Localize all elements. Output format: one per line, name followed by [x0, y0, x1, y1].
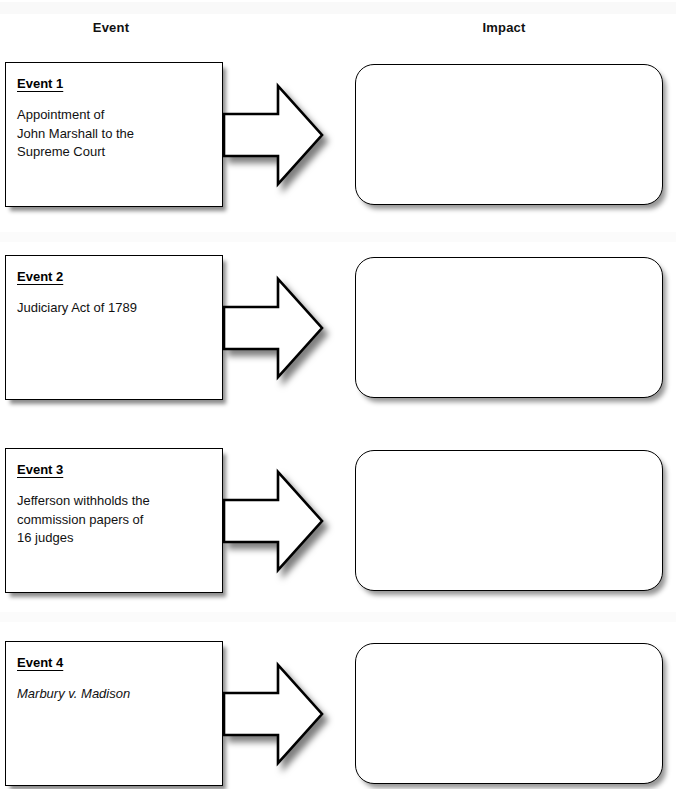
- scan-artifact-band: [0, 232, 676, 242]
- column-header-event: Event: [51, 20, 171, 35]
- table-row: Event 4 Marbury v. Madison: [0, 641, 676, 789]
- right-block-arrow-icon: [222, 82, 324, 188]
- right-block-arrow-icon: [222, 661, 324, 767]
- event-title: Event 3: [17, 462, 63, 477]
- column-header-impact: Impact: [444, 20, 564, 35]
- event-description: Jefferson withholds the commission paper…: [17, 492, 214, 548]
- impact-box[interactable]: [355, 257, 663, 398]
- table-row: Event 2 Judiciary Act of 1789: [0, 255, 676, 403]
- event-box[interactable]: Event 1 Appointment of John Marshall to …: [5, 62, 223, 207]
- event-box[interactable]: Event 2 Judiciary Act of 1789: [5, 255, 223, 400]
- impact-box[interactable]: [355, 643, 663, 784]
- scan-artifact-band: [0, 612, 676, 622]
- impact-box[interactable]: [355, 450, 663, 591]
- table-row: Event 3 Jefferson withholds the commissi…: [0, 448, 676, 596]
- impact-box[interactable]: [355, 64, 663, 205]
- event-description: Judiciary Act of 1789: [17, 299, 214, 318]
- table-row: Event 1 Appointment of John Marshall to …: [0, 62, 676, 210]
- event-description: Appointment of John Marshall to the Supr…: [17, 106, 214, 162]
- scan-artifact-band: [0, 2, 676, 14]
- event-box[interactable]: Event 3 Jefferson withholds the commissi…: [5, 448, 223, 593]
- event-title: Event 1: [17, 76, 63, 91]
- right-block-arrow-icon: [222, 275, 324, 381]
- event-title: Event 2: [17, 269, 63, 284]
- event-box[interactable]: Event 4 Marbury v. Madison: [5, 641, 223, 786]
- event-title: Event 4: [17, 655, 63, 670]
- event-description: Marbury v. Madison: [17, 685, 214, 704]
- right-block-arrow-icon: [222, 468, 324, 574]
